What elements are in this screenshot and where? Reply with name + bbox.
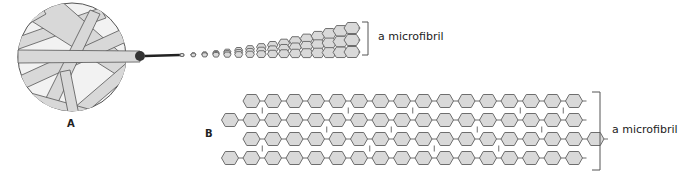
glucose-unit-hexagon bbox=[480, 152, 497, 165]
glucose-unit-hexagon bbox=[566, 95, 583, 108]
microfibril-fan bbox=[180, 23, 360, 58]
glucose-unit-hexagon bbox=[523, 152, 540, 165]
glucose-unit-hexagon bbox=[437, 95, 454, 108]
fiber-cross-section bbox=[0, 0, 180, 128]
glucose-unit-hexagon bbox=[243, 95, 260, 108]
glucose-unit-hexagon bbox=[394, 114, 411, 127]
glucose-unit-hexagon bbox=[544, 114, 561, 127]
glucose-unit-hexagon bbox=[246, 51, 255, 57]
bracket-a bbox=[362, 22, 368, 55]
glucose-unit-hexagon bbox=[587, 133, 604, 146]
glucose-unit-hexagon bbox=[394, 95, 411, 108]
glucose-unit-hexagon bbox=[286, 152, 303, 165]
glucose-unit-hexagon bbox=[480, 95, 497, 108]
glucose-unit-hexagon bbox=[458, 133, 475, 146]
diagram-canvas bbox=[0, 0, 682, 174]
glucose-unit-hexagon bbox=[329, 152, 346, 165]
glucose-unit-hexagon bbox=[394, 152, 411, 165]
glucose-unit-hexagon bbox=[523, 133, 540, 146]
glucose-unit-hexagon bbox=[437, 114, 454, 127]
glucose-unit-hexagon bbox=[458, 152, 475, 165]
glucose-unit-hexagon bbox=[265, 95, 282, 108]
glucose-unit-hexagon bbox=[351, 133, 368, 146]
glucose-unit-hexagon bbox=[243, 152, 260, 165]
glucose-unit-hexagon bbox=[286, 114, 303, 127]
glucose-unit-hexagon bbox=[458, 95, 475, 108]
glucose-unit-hexagon bbox=[415, 114, 432, 127]
glucose-unit-hexagon bbox=[267, 50, 277, 57]
glucose-unit-hexagon bbox=[501, 133, 518, 146]
glucose-unit-hexagon bbox=[394, 133, 411, 146]
glucose-unit-hexagon bbox=[224, 52, 231, 57]
glucose-unit-hexagon bbox=[501, 95, 518, 108]
bracket-b bbox=[592, 92, 600, 170]
glucose-unit-hexagon bbox=[243, 133, 260, 146]
glucose-unit-hexagon bbox=[180, 54, 184, 57]
glucose-unit-hexagon bbox=[329, 95, 346, 108]
glucose-unit-hexagon bbox=[501, 114, 518, 127]
glucose-unit-hexagon bbox=[265, 133, 282, 146]
glucose-unit-hexagon bbox=[213, 52, 219, 57]
glucose-unit-hexagon bbox=[329, 114, 346, 127]
cellulose-microfibril-diagram: a microfibril a microfibril A B bbox=[0, 0, 682, 174]
glucose-unit-hexagon bbox=[372, 114, 389, 127]
glucose-unit-hexagon bbox=[458, 114, 475, 127]
glucose-unit-hexagon bbox=[351, 95, 368, 108]
glucose-unit-hexagon bbox=[523, 95, 540, 108]
glucose-unit-hexagon bbox=[480, 114, 497, 127]
glucose-unit-hexagon bbox=[344, 23, 360, 34]
panel-label-a: A bbox=[67, 118, 75, 129]
glucose-unit-hexagon bbox=[265, 152, 282, 165]
label-microfibril-b: a microfibril bbox=[612, 123, 678, 136]
panel-label-b: B bbox=[205, 128, 213, 139]
glucose-unit-hexagon bbox=[566, 152, 583, 165]
glucose-unit-hexagon bbox=[257, 51, 267, 58]
glucose-unit-hexagon bbox=[544, 152, 561, 165]
glucose-unit-hexagon bbox=[286, 133, 303, 146]
glucose-unit-hexagon bbox=[372, 95, 389, 108]
glucose-unit-hexagon bbox=[202, 53, 208, 57]
glucose-unit-hexagon bbox=[480, 133, 497, 146]
glucose-unit-hexagon bbox=[308, 95, 325, 108]
glucose-unit-hexagon bbox=[235, 52, 243, 58]
glucose-unit-hexagon bbox=[308, 133, 325, 146]
glucose-unit-hexagon bbox=[501, 152, 518, 165]
glucose-unit-hexagon bbox=[415, 133, 432, 146]
glucose-unit-hexagon bbox=[544, 133, 561, 146]
glucose-unit-hexagon bbox=[415, 95, 432, 108]
glucose-unit-hexagon bbox=[243, 114, 260, 127]
glucose-unit-hexagon bbox=[544, 95, 561, 108]
glucose-unit-hexagon bbox=[278, 50, 289, 58]
glucose-unit-hexagon bbox=[308, 152, 325, 165]
glucose-unit-hexagon bbox=[372, 133, 389, 146]
glucose-unit-hexagon bbox=[344, 47, 360, 58]
glucose-unit-hexagon bbox=[222, 114, 239, 127]
glucose-unit-hexagon bbox=[437, 133, 454, 146]
glucose-unit-hexagon bbox=[415, 152, 432, 165]
glucose-unit-hexagon bbox=[523, 114, 540, 127]
glucose-unit-hexagon bbox=[286, 95, 303, 108]
label-microfibril-a: a microfibril bbox=[378, 30, 444, 43]
glucose-unit-hexagon bbox=[308, 114, 325, 127]
glucose-unit-hexagon bbox=[191, 53, 196, 57]
glucose-unit-hexagon bbox=[351, 152, 368, 165]
glucose-unit-hexagon bbox=[329, 133, 346, 146]
glucose-unit-hexagon bbox=[437, 152, 454, 165]
glucose-unit-hexagon bbox=[566, 133, 583, 146]
glucose-unit-hexagon bbox=[351, 114, 368, 127]
glucose-unit-hexagon bbox=[372, 152, 389, 165]
glucose-unit-hexagon bbox=[566, 114, 583, 127]
glucose-unit-hexagon bbox=[344, 35, 360, 46]
microfibril-hexagon-chains bbox=[222, 95, 609, 165]
glucose-unit-hexagon bbox=[222, 152, 239, 165]
glucose-unit-hexagon bbox=[265, 114, 282, 127]
glucose-unit-hexagon bbox=[289, 49, 301, 57]
